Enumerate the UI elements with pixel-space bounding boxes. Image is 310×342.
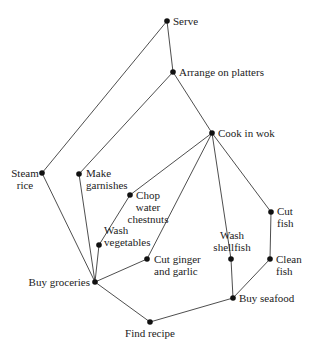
label-line: Wash [104, 224, 129, 236]
label-line: Steam [11, 167, 39, 179]
label-line: Arrange on platters [179, 66, 264, 78]
label-line: and garlic [154, 265, 198, 277]
node-dot-garnish [76, 171, 82, 177]
label-line: Serve [173, 15, 198, 27]
edge-groceries-to-ginger [95, 259, 147, 282]
node-dot-arrange [170, 69, 176, 75]
label-line: Buy groceries [29, 276, 90, 288]
label-line: Cut ginger [154, 253, 201, 265]
label-line: Cut [277, 205, 293, 217]
edge-arrange-to-serve [167, 21, 173, 72]
edge-steam-to-serve [42, 21, 167, 173]
node-dot-steam [39, 170, 45, 176]
node-label-arrange: Arrange on platters [179, 66, 264, 78]
node-dot-cook [209, 130, 215, 136]
label-line: chestnuts [128, 213, 169, 225]
node-dot-washveg [96, 242, 102, 248]
node-label-washveg: Washvegetables [104, 224, 150, 248]
precedence-diagram: ServeArrange on plattersCook in wokSteam… [0, 0, 310, 342]
node-dot-ginger [144, 256, 150, 262]
edge-garnish-to-arrange [79, 72, 173, 174]
node-label-cutfish: Cutfish [277, 205, 294, 229]
edge-cook-to-arrange [173, 72, 212, 133]
node-dot-cutfish [268, 209, 274, 215]
label-line: rice [17, 179, 34, 191]
edge-cleanfish-to-cutfish [270, 212, 271, 259]
node-label-ginger: Cut gingerand garlic [154, 253, 201, 277]
node-label-cleanfish: Cleanfish [276, 253, 302, 277]
edge-recipe-to-groceries [95, 282, 150, 322]
label-line: Find recipe [125, 327, 175, 339]
label-line: Chop [136, 189, 160, 201]
label-line: Cook in wok [218, 127, 275, 139]
labels-layer: ServeArrange on plattersCook in wokSteam… [11, 15, 302, 339]
edge-chop-to-cook [130, 133, 212, 195]
node-dot-recipe [147, 319, 153, 325]
node-label-seafood: Buy seafood [239, 292, 295, 304]
node-label-recipe: Find recipe [125, 327, 175, 339]
node-dot-seafood [230, 295, 236, 301]
label-line: Make [86, 167, 111, 179]
label-line: vegetables [104, 236, 150, 248]
node-label-serve: Serve [173, 15, 198, 27]
label-line: Clean [276, 253, 302, 265]
label-line: Buy seafood [239, 292, 295, 304]
node-dot-groceries [92, 279, 98, 285]
node-dot-chop [127, 192, 133, 198]
label-line: fish [276, 265, 293, 277]
edge-cutfish-to-cook [212, 133, 271, 212]
node-label-garnish: Makegarnishes [86, 167, 128, 191]
edge-groceries-to-washveg [95, 245, 99, 282]
node-dot-serve [164, 18, 170, 24]
label-line: garnishes [86, 179, 128, 191]
node-dot-cleanfish [267, 256, 273, 262]
label-line: water [136, 201, 161, 213]
label-line: Wash [220, 229, 245, 241]
node-label-groceries: Buy groceries [29, 276, 90, 288]
node-label-cook: Cook in wok [218, 127, 275, 139]
edge-recipe-to-seafood [150, 298, 233, 322]
label-line: shellfish [213, 241, 251, 253]
node-label-shellfish: Washshellfish [213, 229, 251, 253]
node-label-steam: Steamrice [11, 167, 39, 191]
edge-seafood-to-shellfish [231, 259, 233, 298]
label-line: fish [277, 217, 294, 229]
node-dot-shellfish [228, 256, 234, 262]
node-label-chop: Chopwaterchestnuts [128, 189, 169, 225]
